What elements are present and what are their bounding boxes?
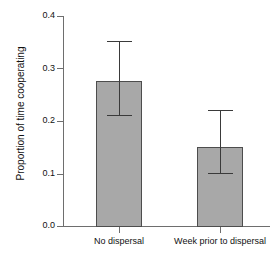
y-axis-title: Proportion of time cooperating [14, 0, 28, 227]
error-bar-cap-lower-week-prior-to-dispersal [208, 173, 233, 174]
y-tick-label-0.1: 0.1 [42, 169, 55, 178]
x-tick-label-no-dispersal: No dispersal [94, 236, 144, 246]
y-tick-label-0.2: 0.2 [42, 116, 55, 125]
error-bar-cap-upper-no-dispersal [107, 41, 132, 42]
x-tick-mark-week-prior-to-dispersal [220, 227, 221, 233]
x-tick-label-week-prior-to-dispersal: Week prior to dispersal [174, 236, 266, 246]
y-tick-label-0.0: 0.0 [42, 221, 55, 230]
y-tick-label-0.4: 0.4 [42, 11, 55, 20]
error-bar-cap-lower-no-dispersal [107, 115, 132, 116]
bar-chart-figure: Proportion of time cooperating 0.4 0.3 0… [0, 0, 276, 257]
x-tick-mark-no-dispersal [119, 227, 120, 233]
y-axis-line [63, 16, 64, 227]
error-bar-cap-upper-week-prior-to-dispersal [208, 110, 233, 111]
y-tick-label-0.3: 0.3 [42, 64, 55, 73]
error-bar-stem-week-prior-to-dispersal [220, 110, 221, 174]
error-bar-stem-no-dispersal [119, 41, 120, 116]
